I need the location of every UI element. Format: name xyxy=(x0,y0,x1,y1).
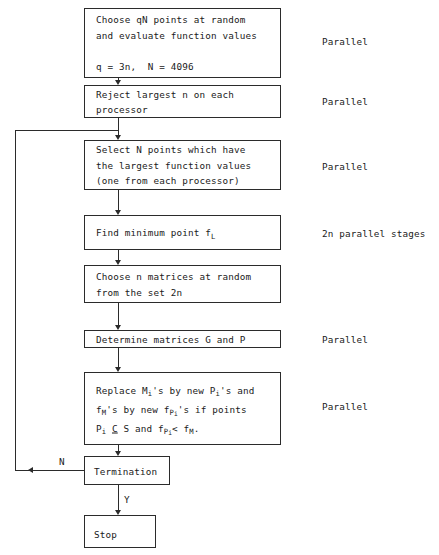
side-label-choose-points: Parallel xyxy=(322,36,368,47)
feedback-loop-left-segment xyxy=(15,130,16,471)
node-stop[interactable]: Stop xyxy=(84,515,156,548)
node-determine-matrices-text: Determine matrices G and P xyxy=(96,333,245,346)
node-termination-text: Termination xyxy=(94,464,157,477)
node-reject-largest[interactable]: Reject largest n on each processor xyxy=(84,85,281,118)
connector-termination-to-stop xyxy=(118,485,119,510)
node-stop-text: Stop xyxy=(94,528,117,541)
node-determine-matrices[interactable]: Determine matrices G and P xyxy=(84,330,281,348)
edge-label-yes: Y xyxy=(124,495,130,505)
node-reject-largest-text: Reject largest n on each processor xyxy=(96,86,234,117)
node-find-minimum-text: Find minimum point fL xyxy=(96,225,215,241)
node-select-points[interactable]: Select N points which have the largest f… xyxy=(84,140,281,190)
node-choose-matrices-text: Choose n matrices at random from the set… xyxy=(96,269,251,300)
connector-select-to-find xyxy=(118,190,119,210)
side-label-find-minimum: 2n parallel stages xyxy=(322,228,425,239)
node-replace[interactable]: Replace Mi's by new Pi's and fM's by new… xyxy=(84,372,281,445)
side-label-reject-largest: Parallel xyxy=(322,96,368,107)
node-termination[interactable]: Termination xyxy=(84,456,170,485)
connector-reject-to-select xyxy=(118,118,119,136)
node-find-minimum[interactable]: Find minimum point fL xyxy=(84,215,281,250)
node-choose-matrices[interactable]: Choose n matrices at random from the set… xyxy=(84,265,281,303)
edge-label-no: N xyxy=(59,457,65,467)
arrowhead-feedback-loop xyxy=(28,467,33,473)
connector-determine-to-replace xyxy=(118,348,119,367)
flowchart-canvas: Choose qN points at random and evaluate … xyxy=(0,0,439,555)
node-choose-points[interactable]: Choose qN points at random and evaluate … xyxy=(84,8,281,78)
node-select-points-text: Select N points which have the largest f… xyxy=(96,142,251,189)
feedback-loop-top-segment xyxy=(15,130,119,131)
side-label-select-points: Parallel xyxy=(322,161,368,172)
side-label-determine-matrices: Parallel xyxy=(322,334,368,345)
connector-choose-matrices-to-determine xyxy=(118,303,119,325)
node-choose-points-text: Choose qN points at random and evaluate … xyxy=(96,12,257,74)
connector-find-to-choose-matrices xyxy=(118,250,119,260)
side-label-replace: Parallel xyxy=(322,401,368,412)
feedback-loop-bottom-segment xyxy=(32,470,84,471)
node-replace-text: Replace Mi's by new Pi's and fM's by new… xyxy=(96,380,254,437)
